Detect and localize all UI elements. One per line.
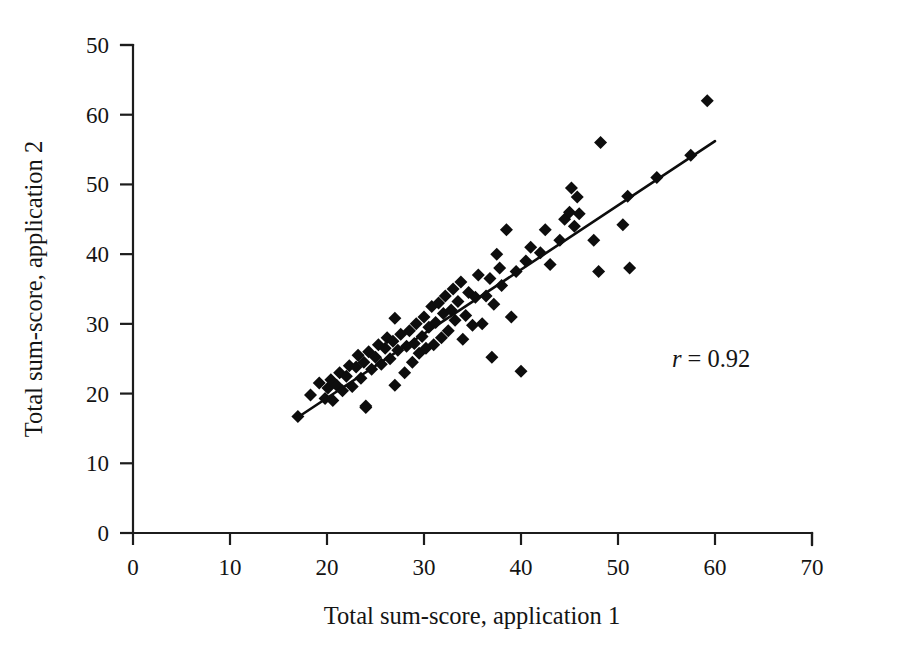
- scatter-plot-figure: 010203040506070 010203040506050 Total su…: [0, 0, 909, 655]
- y-tick-label: 30: [86, 312, 109, 337]
- data-point-marker: [359, 400, 372, 413]
- x-tick-label: 60: [704, 555, 727, 580]
- data-point-marker: [476, 317, 489, 330]
- data-point-marker: [388, 312, 401, 325]
- data-point-marker: [573, 207, 586, 220]
- data-point-marker: [456, 333, 469, 346]
- y-tick-label: 50: [86, 172, 109, 197]
- data-point-marker: [490, 248, 503, 261]
- plot-canvas: 010203040506070 010203040506050 Total su…: [0, 0, 909, 655]
- data-point-marker: [623, 262, 636, 275]
- data-point-marker: [592, 265, 605, 278]
- y-tick-label: 10: [86, 451, 109, 476]
- x-tick-label: 70: [801, 555, 824, 580]
- data-point-marker: [483, 272, 496, 285]
- data-point-marker: [500, 223, 513, 236]
- data-point-marker: [544, 258, 557, 271]
- data-point-marker: [304, 388, 317, 401]
- y-tick-label: 40: [86, 242, 109, 267]
- correlation-value: = 0.92: [688, 345, 751, 372]
- data-point-marker: [493, 262, 506, 275]
- x-axis-ticks: 010203040506070: [127, 533, 823, 580]
- data-point-marker: [398, 366, 411, 379]
- data-point-marker: [472, 269, 485, 282]
- y-axis-title: Total sum-score, application 2: [20, 141, 47, 437]
- x-tick-label: 10: [219, 555, 242, 580]
- data-point-marker: [505, 310, 518, 323]
- x-tick-label: 50: [607, 555, 630, 580]
- data-point-marker: [388, 379, 401, 392]
- x-tick-label: 0: [127, 555, 139, 580]
- data-point-marker: [701, 94, 714, 107]
- data-point-marker: [406, 356, 419, 369]
- regression-line: [298, 141, 715, 417]
- y-tick-label: 60: [86, 103, 109, 128]
- data-point-marker: [539, 223, 552, 236]
- data-point-marker: [515, 365, 528, 378]
- data-point-marker: [485, 351, 498, 364]
- data-point-marker: [594, 136, 607, 149]
- x-tick-label: 40: [510, 555, 533, 580]
- x-tick-label: 30: [413, 555, 436, 580]
- data-point-marker: [466, 319, 479, 332]
- x-axis-title: Total sum-score, application 1: [324, 602, 620, 629]
- x-tick-label: 20: [316, 555, 339, 580]
- correlation-annotation: r= 0.92: [672, 345, 750, 372]
- y-tick-label: 0: [98, 521, 110, 546]
- data-points-layer: [291, 94, 713, 423]
- data-point-marker: [487, 298, 500, 311]
- y-tick-label: 50: [86, 33, 109, 58]
- correlation-symbol: r: [672, 345, 682, 372]
- data-point-marker: [616, 218, 629, 231]
- y-axis-ticks: 010203040506050: [86, 33, 133, 546]
- y-tick-label: 20: [86, 382, 109, 407]
- data-point-marker: [587, 234, 600, 247]
